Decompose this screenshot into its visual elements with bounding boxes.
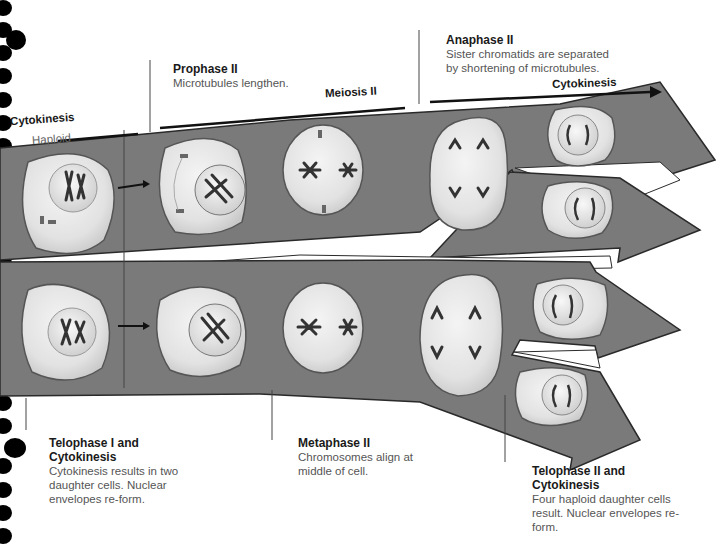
- cytokinesis-right-label: Cytokinesis: [552, 76, 617, 90]
- cell-telophase-ii-bottom-b: [515, 368, 587, 426]
- cell-telophase-ii-bottom-a: [533, 278, 607, 339]
- cell-prophase-ii-bottom: [157, 287, 246, 376]
- cell-prophase-ii-top: [159, 138, 246, 234]
- callout-metaphase-ii: Metaphase II Chromosomes align at middle…: [298, 436, 428, 478]
- callout-title: Prophase II: [173, 62, 373, 76]
- meiosis-diagram: Cytokinesis Haploid Meiosis II Cytokines…: [0, 0, 716, 549]
- cell-telophase-i-bottom: [22, 284, 110, 380]
- callout-desc: Chromosomes align at middle of cell.: [298, 450, 428, 478]
- callout-title: Telophase II and Cytokinesis: [532, 464, 682, 492]
- cell-anaphase-ii-top: [430, 118, 508, 231]
- callout-prophase-ii: Prophase II Microtubules lengthen.: [173, 62, 373, 90]
- callout-desc: Microtubules lengthen.: [173, 76, 373, 90]
- cell-metaphase-ii-top: [283, 125, 363, 215]
- callout-telophase-i: Telophase I and Cytokinesis Cytokinesis …: [49, 436, 199, 506]
- callout-anaphase-ii: Anaphase II Sister chromatids are separa…: [446, 33, 616, 75]
- cell-telophase-ii-top-a: [548, 106, 615, 166]
- callout-desc: Sister chromatids are separated by short…: [446, 47, 616, 75]
- callout-desc: Four haploid daughter cells result. Nucl…: [532, 492, 682, 534]
- callout-title: Anaphase II: [446, 33, 616, 47]
- cell-metaphase-ii-bottom: [283, 283, 363, 373]
- cell-telophase-ii-top-b: [542, 182, 613, 239]
- callout-desc: Cytokinesis results in two daughter cell…: [49, 464, 199, 506]
- callout-title: Telophase I and Cytokinesis: [49, 436, 199, 464]
- callout-telophase-ii: Telophase II and Cytokinesis Four haploi…: [532, 464, 682, 534]
- cell-anaphase-ii-bottom: [420, 274, 503, 396]
- cell-telophase-i-top: [23, 154, 115, 254]
- callout-title: Metaphase II: [298, 436, 428, 450]
